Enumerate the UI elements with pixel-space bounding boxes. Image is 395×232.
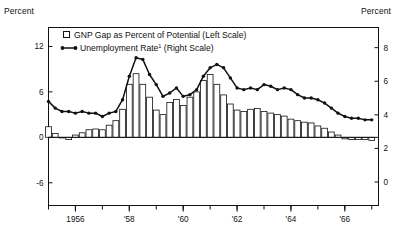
data-point	[47, 100, 50, 103]
svg-text:6: 6	[39, 88, 44, 97]
data-point	[256, 88, 259, 91]
data-point	[155, 83, 158, 86]
data-point	[134, 56, 137, 59]
svg-text:'60: '60	[178, 215, 189, 224]
gnp-gap-bar	[207, 74, 213, 137]
data-point	[249, 86, 252, 89]
data-point	[80, 110, 83, 113]
right-axis: 86420	[375, 44, 389, 187]
gnp-gap-bar	[106, 125, 112, 137]
data-point	[54, 106, 57, 109]
plot-frame	[49, 28, 379, 206]
gnp-gap-bar	[214, 84, 220, 137]
svg-text:12: 12	[34, 42, 44, 51]
data-point	[242, 88, 245, 91]
gnp-gap-bar	[328, 132, 334, 137]
gnp-gap-bar	[160, 115, 166, 138]
gnp-gap-bar	[275, 115, 281, 138]
chart-legend: GNP Gap as Percent of Potential (Left Sc…	[61, 30, 247, 54]
data-point	[208, 66, 211, 69]
gnp-gap-bar	[126, 84, 132, 137]
gnp-gap-bar	[227, 104, 233, 137]
data-point	[323, 101, 326, 104]
data-point	[195, 88, 198, 91]
data-point	[168, 91, 171, 94]
gnp-gap-bar	[302, 122, 308, 137]
data-point	[161, 95, 164, 98]
gnp-gap-bar	[52, 134, 58, 138]
data-point	[148, 73, 151, 76]
gnp-gap-bar	[194, 92, 200, 137]
data-point	[336, 111, 339, 114]
data-point	[87, 111, 90, 114]
svg-text:0: 0	[384, 178, 389, 187]
gnp-gap-bar	[322, 128, 328, 137]
data-point	[343, 115, 346, 118]
data-point	[309, 96, 312, 99]
svg-text:'66: '66	[339, 215, 350, 224]
left-axis: 1260-6	[34, 42, 52, 187]
data-point	[370, 118, 373, 121]
gnp-gap-bar	[308, 123, 314, 137]
gnp-gap-bar	[140, 84, 146, 137]
gnp-gap-bar	[86, 130, 92, 138]
svg-text:1956: 1956	[66, 215, 85, 224]
data-point	[363, 118, 366, 121]
data-point	[202, 75, 205, 78]
gnp-gap-bars	[46, 74, 379, 141]
gnp-gap-bar	[261, 112, 267, 138]
x-axis: 1956'58'60'62'64'66	[49, 206, 372, 224]
gnp-gap-bar	[315, 126, 321, 137]
svg-text:4: 4	[384, 111, 389, 120]
data-point	[222, 66, 225, 69]
data-point	[175, 86, 178, 89]
data-point	[229, 76, 232, 79]
gnp-gap-bar	[180, 106, 186, 138]
legend-label-gnp-gap: GNP Gap as Percent of Potential (Left Sc…	[74, 30, 246, 40]
data-point	[330, 106, 333, 109]
gnp-gap-bar	[268, 113, 274, 137]
data-point	[262, 83, 265, 86]
data-point	[67, 110, 70, 113]
data-point	[94, 111, 97, 114]
gnp-gap-bar	[241, 112, 247, 138]
gnp-gap-bar	[93, 129, 99, 137]
data-point	[350, 116, 353, 119]
gnp-gap-bar	[113, 121, 119, 138]
gnp-gap-bar	[201, 81, 207, 138]
data-point	[188, 93, 191, 96]
gnp-gap-bar	[221, 95, 227, 137]
gnp-gap-bar	[99, 130, 105, 138]
open-square-icon	[64, 32, 70, 38]
data-point	[276, 88, 279, 91]
gnp-gap-bar	[288, 119, 294, 137]
data-point	[60, 110, 63, 113]
data-point	[296, 93, 299, 96]
gnp-gap-bar	[167, 102, 173, 137]
svg-text:8: 8	[384, 44, 389, 53]
gnp-gap-bar	[254, 109, 260, 138]
data-point	[74, 111, 77, 114]
gnp-gap-bar	[153, 110, 159, 137]
data-point	[121, 98, 124, 101]
data-point	[303, 96, 306, 99]
data-point	[269, 85, 272, 88]
svg-text:'62: '62	[232, 215, 243, 224]
data-point	[128, 75, 131, 78]
data-point	[101, 115, 104, 118]
gnp-gap-bar	[174, 99, 180, 137]
data-point	[215, 63, 218, 66]
data-point	[283, 86, 286, 89]
gnp-gap-bar	[248, 109, 254, 137]
svg-text:'58: '58	[124, 215, 135, 224]
gnp-gap-bar	[234, 110, 240, 137]
data-point	[316, 98, 319, 101]
gnp-gap-bar	[46, 127, 52, 138]
chart-root: Percent Percent 1260-6 86420 1956'58'60'…	[0, 0, 395, 232]
gnp-gap-bar	[147, 97, 153, 137]
gnp-gap-bar	[187, 97, 193, 137]
svg-text:-6: -6	[36, 179, 44, 188]
data-point	[114, 110, 117, 113]
data-point	[235, 86, 238, 89]
gnp-gap-bar	[295, 121, 301, 138]
